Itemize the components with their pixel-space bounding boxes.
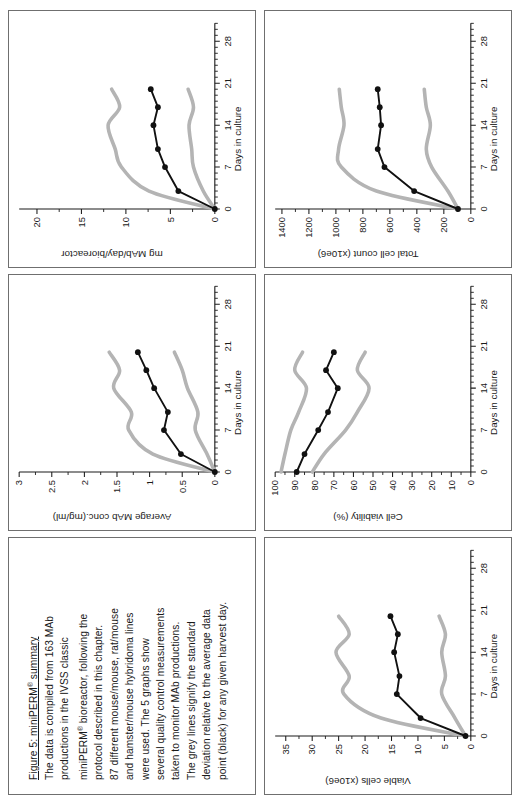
y-axis-title-wrap: Cell viability (%) — [265, 508, 471, 526]
caption-panel: Figure 5: miniPERM® summary The data is … — [8, 537, 256, 795]
svg-text:15: 15 — [387, 744, 397, 754]
svg-text:10: 10 — [413, 744, 423, 754]
chart-panel-total-cell-count: Total cell count (x10e6) 020040060080010… — [264, 10, 512, 268]
caption-line: taken to monitor MAb productions. — [168, 550, 183, 780]
svg-text:20: 20 — [32, 217, 42, 227]
svg-text:5: 5 — [440, 744, 450, 749]
svg-text:80: 80 — [310, 480, 320, 490]
svg-text:5: 5 — [166, 217, 176, 222]
svg-text:30: 30 — [407, 480, 417, 490]
svg-text:1000: 1000 — [331, 217, 341, 238]
svg-text:20: 20 — [360, 744, 370, 754]
y-axis-title: Cell viability (%) — [333, 512, 403, 523]
svg-text:1400: 1400 — [277, 217, 287, 238]
chart-mg-mab-per-day: mg MAb/day/bioreactor 0510152007142128 D… — [9, 11, 255, 267]
figure-page: Figure 5: miniPERM® summary The data is … — [0, 0, 518, 805]
caption-line: were used. The 5 graphs show — [138, 550, 153, 780]
svg-text:1.5: 1.5 — [112, 480, 122, 493]
svg-text:0: 0 — [466, 744, 476, 749]
svg-text:0: 0 — [466, 217, 476, 222]
caption-line: point (black) for any given harvest day. — [215, 550, 230, 780]
svg-text:800: 800 — [358, 217, 368, 233]
x-axis-title: Days in culture — [232, 11, 243, 267]
svg-text:1200: 1200 — [304, 217, 314, 238]
caption-line: miniPERM® bioreactor, following the — [73, 550, 92, 780]
svg-text:2.5: 2.5 — [47, 480, 57, 493]
svg-text:15: 15 — [77, 217, 87, 227]
svg-text:60: 60 — [349, 480, 359, 490]
y-axis-title-wrap: mg MAb/day/bioreactor — [9, 245, 215, 263]
plot-area: 00.511.522.5307142128 — [19, 287, 215, 473]
svg-text:50: 50 — [368, 480, 378, 490]
chart-viable-cells: Viable cells (x10e6) 0510152025303507142… — [265, 538, 511, 794]
y-axis-title: Average MAb conc.(mg/ml) — [53, 512, 172, 523]
svg-text:0.5: 0.5 — [178, 480, 188, 493]
chart-panel-mg-mab-per-day: mg MAb/day/bioreactor 0510152007142128 D… — [8, 10, 256, 268]
y-axis-title-wrap: Average MAb conc.(mg/ml) — [9, 508, 215, 526]
chart-average-mab-conc: Average MAb conc.(mg/ml) 00.511.522.5307… — [9, 275, 255, 531]
chart-panel-cell-viability: Cell viability (%) 010203040506070809010… — [264, 274, 512, 532]
caption-line: The grey lines signify the standard — [184, 550, 199, 780]
y-axis-title-wrap: Viable cells (x10e6) — [265, 772, 471, 790]
svg-text:35: 35 — [281, 744, 291, 754]
svg-text:40: 40 — [388, 480, 398, 490]
caption-line: and hamster/mouse hybridoma lines — [122, 550, 137, 780]
svg-text:70: 70 — [329, 480, 339, 490]
x-axis-title: Days in culture — [488, 538, 499, 794]
caption-line: The data is compiled from 163 MAb — [42, 550, 57, 780]
svg-text:400: 400 — [412, 217, 422, 233]
chart-panel-average-mab-conc: Average MAb conc.(mg/ml) 00.511.522.5307… — [8, 274, 256, 532]
svg-text:25: 25 — [334, 744, 344, 754]
svg-text:100: 100 — [270, 480, 280, 496]
caption-title: Figure 5: miniPERM® summary — [23, 550, 42, 780]
caption-line: several quality control measurements — [153, 550, 168, 780]
svg-text:10: 10 — [121, 217, 131, 227]
x-axis-title: Days in culture — [488, 11, 499, 267]
chart-panel-viable-cells: Viable cells (x10e6) 0510152025303507142… — [264, 537, 512, 795]
svg-text:0: 0 — [210, 217, 220, 222]
svg-text:2: 2 — [80, 480, 90, 485]
svg-text:1: 1 — [145, 480, 155, 485]
x-axis-title: Days in culture — [488, 275, 499, 531]
y-axis-title: Viable cells (x10e6) — [325, 776, 410, 787]
svg-text:90: 90 — [290, 480, 300, 490]
plot-area: 010203040506070809010007142128 — [275, 287, 471, 473]
figure-grid: Figure 5: miniPERM® summary The data is … — [0, 0, 518, 805]
plot-area: 0510152025303507142128 — [275, 550, 471, 736]
x-axis-title: Days in culture — [232, 275, 243, 531]
plot-area: 020040060080010001200140007142128 — [275, 23, 471, 209]
svg-text:600: 600 — [385, 217, 395, 233]
svg-text:10: 10 — [447, 480, 457, 490]
y-axis-title-wrap: Total cell count (x10e6) — [265, 245, 471, 263]
caption-line: 87 different mouse/mouse, rat/mouse — [107, 550, 122, 780]
svg-text:20: 20 — [427, 480, 437, 490]
svg-text:200: 200 — [439, 217, 449, 233]
svg-text:30: 30 — [307, 744, 317, 754]
y-axis-title: mg MAb/day/bioreactor — [61, 248, 162, 259]
svg-text:0: 0 — [466, 480, 476, 485]
chart-cell-viability: Cell viability (%) 010203040506070809010… — [265, 275, 511, 531]
plot-area: 0510152007142128 — [19, 23, 215, 209]
caption-line: deviation relative to the average data — [199, 550, 214, 780]
caption-line: protocol described in this chapter. — [91, 550, 106, 780]
chart-total-cell-count: Total cell count (x10e6) 020040060080010… — [265, 11, 511, 267]
caption-line: productions in the IVSS classic — [57, 550, 72, 780]
svg-text:0: 0 — [210, 480, 220, 485]
y-axis-title: Total cell count (x10e6) — [318, 248, 419, 259]
svg-text:3: 3 — [14, 480, 24, 485]
